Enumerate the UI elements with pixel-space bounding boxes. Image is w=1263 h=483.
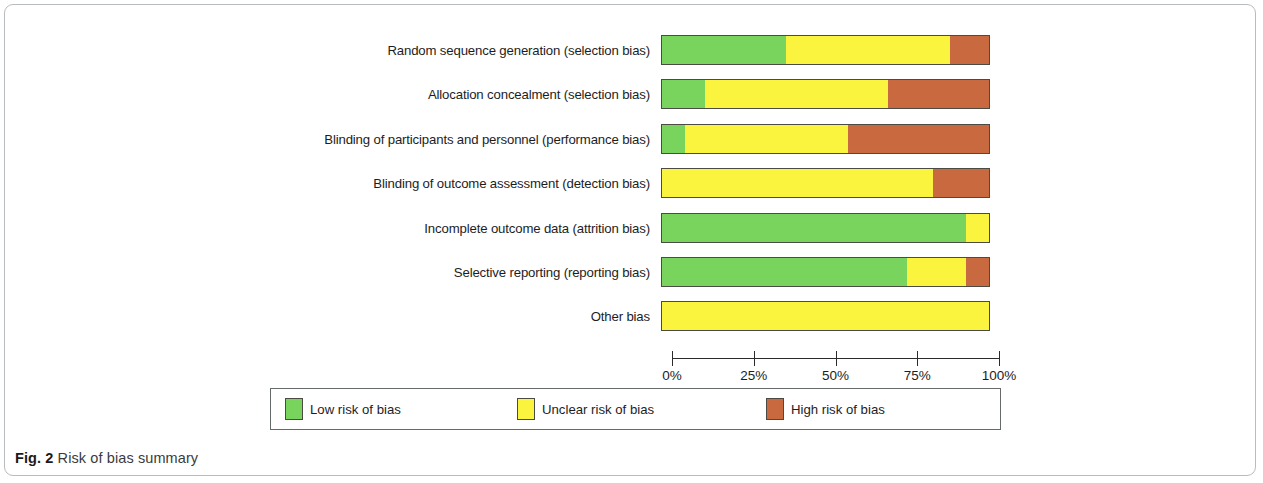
bar-segment-high bbox=[888, 80, 989, 108]
bar-segment-unclear bbox=[966, 214, 989, 242]
bar-segment-unclear bbox=[662, 169, 933, 197]
bar-segment-unclear bbox=[685, 125, 849, 153]
bar-row: Random sequence generation (selection bi… bbox=[5, 35, 1001, 65]
axis-tick-label: 25% bbox=[740, 368, 767, 383]
axis-tick bbox=[836, 351, 837, 366]
bar-row: Allocation concealment (selection bias) bbox=[5, 79, 1001, 109]
bar-track bbox=[661, 124, 990, 154]
axis-tick bbox=[672, 351, 673, 366]
axis-tick-label: 50% bbox=[822, 368, 849, 383]
axis-tick bbox=[754, 351, 755, 366]
bar-segment-low bbox=[662, 214, 966, 242]
legend-swatch-icon bbox=[517, 398, 535, 420]
legend-label: High risk of bias bbox=[791, 402, 885, 417]
bar-track bbox=[661, 35, 990, 65]
bar-label: Incomplete outcome data (attrition bias) bbox=[5, 221, 661, 236]
bar-label: Random sequence generation (selection bi… bbox=[5, 43, 661, 58]
figure-card: Random sequence generation (selection bi… bbox=[4, 4, 1256, 476]
legend-label: Low risk of bias bbox=[310, 402, 401, 417]
bar-label: Blinding of outcome assessment (detectio… bbox=[5, 176, 661, 191]
chart-legend: Low risk of biasUnclear risk of biasHigh… bbox=[270, 388, 1001, 430]
bar-segment-unclear bbox=[705, 80, 888, 108]
legend-swatch-icon bbox=[766, 398, 784, 420]
legend-item: Unclear risk of bias bbox=[517, 396, 654, 422]
bar-row: Blinding of outcome assessment (detectio… bbox=[5, 168, 1001, 198]
bar-segment-low bbox=[662, 125, 685, 153]
bar-segment-unclear bbox=[786, 36, 950, 64]
bar-segment-high bbox=[966, 258, 989, 286]
figure-caption-prefix: Fig. 2 bbox=[15, 450, 53, 466]
legend-item: Low risk of bias bbox=[285, 396, 401, 422]
bar-segment-low bbox=[662, 80, 705, 108]
bar-segment-unclear bbox=[662, 302, 989, 330]
bar-row: Blinding of participants and personnel (… bbox=[5, 124, 1001, 154]
bar-track bbox=[661, 257, 990, 287]
figure-caption: Fig. 2 Risk of bias summary bbox=[15, 450, 198, 466]
legend-swatch-icon bbox=[285, 398, 303, 420]
bar-row: Other bias bbox=[5, 301, 1001, 331]
bar-track bbox=[661, 301, 990, 331]
axis-tick-label: 0% bbox=[662, 368, 682, 383]
axis-tick bbox=[917, 351, 918, 366]
legend-label: Unclear risk of bias bbox=[542, 402, 654, 417]
bar-track bbox=[661, 168, 990, 198]
bar-label: Allocation concealment (selection bias) bbox=[5, 87, 661, 102]
x-axis: 0%25%50%75%100% bbox=[669, 349, 1001, 389]
bar-segment-high bbox=[950, 36, 989, 64]
bar-label: Selective reporting (reporting bias) bbox=[5, 265, 661, 280]
axis-tick bbox=[999, 351, 1000, 366]
bar-segment-unclear bbox=[907, 258, 966, 286]
bar-row: Incomplete outcome data (attrition bias) bbox=[5, 213, 1001, 243]
bar-label: Blinding of participants and personnel (… bbox=[5, 132, 661, 147]
bar-segment-high bbox=[933, 169, 989, 197]
bar-row: Selective reporting (reporting bias) bbox=[5, 257, 1001, 287]
legend-item: High risk of bias bbox=[766, 396, 885, 422]
axis-tick-label: 75% bbox=[904, 368, 931, 383]
figure-caption-text: Risk of bias summary bbox=[58, 450, 199, 466]
bar-segment-low bbox=[662, 258, 907, 286]
bar-segment-low bbox=[662, 36, 786, 64]
bar-label: Other bias bbox=[5, 309, 661, 324]
bar-segment-high bbox=[848, 125, 989, 153]
axis-tick-label: 100% bbox=[982, 368, 1017, 383]
bar-track bbox=[661, 79, 990, 109]
bar-track bbox=[661, 213, 990, 243]
risk-of-bias-chart: Random sequence generation (selection bi… bbox=[5, 5, 1257, 437]
